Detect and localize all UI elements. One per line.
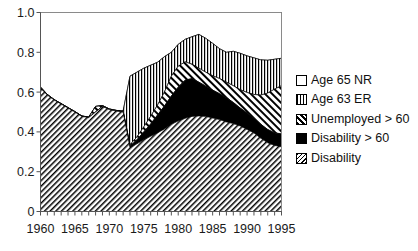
series-layer bbox=[41, 13, 282, 212]
y-tick-label: 0.2 bbox=[17, 165, 34, 179]
legend-label-age-65-nr: Age 65 NR bbox=[311, 74, 372, 87]
chart-legend: Age 65 NR Age 63 ER Unemployed > 60 Disa… bbox=[296, 73, 418, 171]
chart-container: 19601965197019751980198519901995 00.20.4… bbox=[0, 0, 418, 251]
y-tick-label: 0.8 bbox=[17, 46, 34, 60]
x-tick-label: 1965 bbox=[61, 222, 89, 236]
x-tick-label: 1990 bbox=[233, 222, 261, 236]
legend-label-age-63-er: Age 63 ER bbox=[311, 93, 371, 106]
x-axis-tick-labels: 19601965197019751980198519901995 bbox=[27, 222, 296, 236]
x-tick-label: 1970 bbox=[95, 222, 123, 236]
x-tick-label: 1975 bbox=[130, 222, 158, 236]
legend-swatch-disability bbox=[296, 153, 307, 164]
y-axis-ticks bbox=[37, 13, 41, 212]
legend-label-disability-over-60: Disability > 60 bbox=[311, 132, 389, 145]
y-tick-label: 0.6 bbox=[17, 86, 34, 100]
legend-swatch-unemployed-over-60 bbox=[296, 114, 307, 125]
legend-item-disability-over-60: Disability > 60 bbox=[296, 132, 418, 146]
x-tick-label: 1995 bbox=[268, 222, 296, 236]
y-tick-label: 1.0 bbox=[17, 6, 34, 20]
legend-item-unemployed-over-60: Unemployed > 60 bbox=[296, 112, 418, 126]
legend-swatch-age-63-er bbox=[296, 94, 307, 105]
legend-item-age-63-er: Age 63 ER bbox=[296, 93, 418, 107]
legend-swatch-disability-over-60 bbox=[296, 133, 307, 144]
legend-swatch-age-65-nr bbox=[296, 75, 307, 86]
legend-item-disability: Disability bbox=[296, 151, 418, 165]
y-tick-label: 0 bbox=[28, 205, 35, 219]
plot-area: 19601965197019751980198519901995 00.20.4… bbox=[17, 6, 295, 236]
x-axis-ticks bbox=[41, 212, 282, 216]
y-tick-label: 0.4 bbox=[17, 125, 34, 139]
y-axis-tick-labels: 00.20.40.60.81.0 bbox=[17, 6, 34, 219]
legend-label-unemployed-over-60: Unemployed > 60 bbox=[311, 113, 409, 126]
x-tick-label: 1980 bbox=[164, 222, 192, 236]
x-tick-label: 1985 bbox=[199, 222, 227, 236]
legend-label-disability: Disability bbox=[311, 152, 361, 165]
x-tick-label: 1960 bbox=[27, 222, 55, 236]
legend-item-age-65-nr: Age 65 NR bbox=[296, 73, 418, 87]
